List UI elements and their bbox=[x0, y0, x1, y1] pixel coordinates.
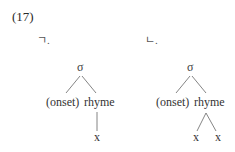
branch-b-rhyme-x-right bbox=[206, 113, 216, 131]
tree-branches bbox=[0, 0, 235, 152]
branch-a-sigma-rhyme bbox=[82, 76, 96, 93]
branch-b-sigma-onset bbox=[176, 76, 190, 93]
branch-a-sigma-onset bbox=[66, 76, 80, 93]
branch-b-rhyme-x-left bbox=[197, 113, 206, 131]
branch-b-sigma-rhyme bbox=[192, 76, 206, 93]
